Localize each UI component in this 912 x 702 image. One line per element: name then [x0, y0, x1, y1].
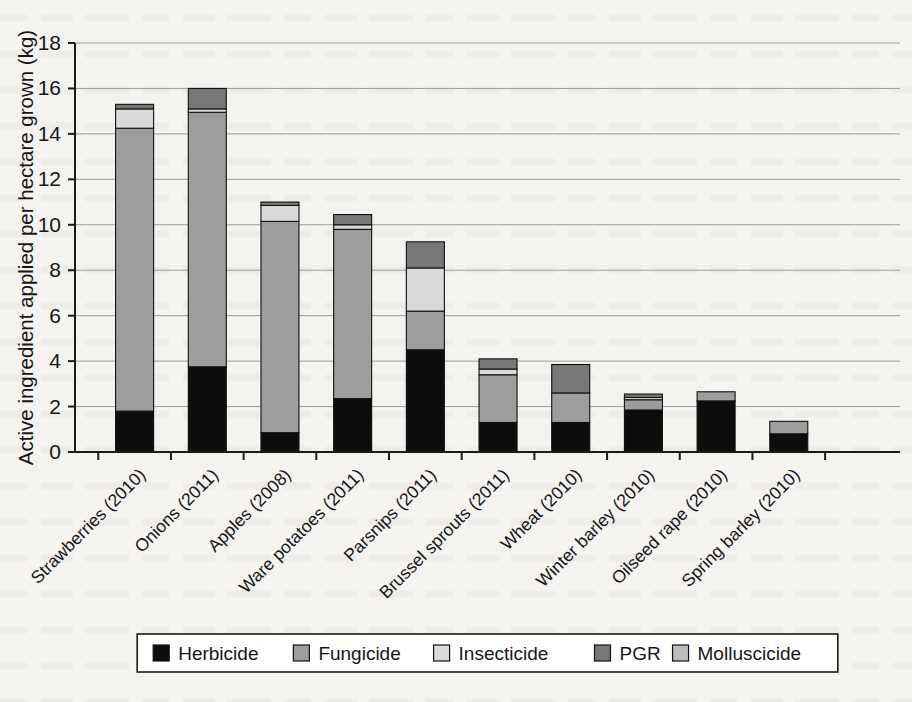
- bar-segment-herbicide[interactable]: [552, 422, 590, 452]
- bar-segment-pgr[interactable]: [261, 202, 299, 205]
- bar-segment-pgr[interactable]: [479, 359, 517, 369]
- bar-spring-barley-2010[interactable]: [770, 421, 808, 452]
- legend-label: Herbicide: [178, 643, 258, 664]
- y-tick-label: 10: [38, 213, 61, 236]
- y-tick-label: 2: [49, 395, 61, 418]
- legend-swatch-fungicide: [293, 645, 309, 661]
- legend-label: Molluscicide: [698, 643, 801, 664]
- bar-segment-pgr[interactable]: [334, 215, 372, 225]
- bar-segment-pgr[interactable]: [552, 365, 590, 393]
- bar-oilseed-rape-2010[interactable]: [697, 392, 735, 452]
- bar-winter-barley-2010[interactable]: [624, 394, 662, 452]
- bar-segment-herbicide[interactable]: [624, 410, 662, 452]
- y-tick-label: 0: [49, 440, 61, 463]
- legend-label: Insecticide: [459, 643, 549, 664]
- x-tick-label: Strawberries (2010): [27, 465, 150, 588]
- bar-segment-pgr[interactable]: [624, 394, 662, 397]
- bar-segment-herbicide[interactable]: [406, 350, 444, 452]
- bar-segment-fungicide[interactable]: [552, 393, 590, 423]
- x-tick-label: Winter barley (2010): [532, 465, 658, 591]
- bar-strawberries-2010[interactable]: [116, 104, 154, 452]
- legend-swatch-pgr: [594, 645, 610, 661]
- y-tick-label: 18: [38, 31, 61, 54]
- bar-onions-2011[interactable]: [188, 88, 226, 452]
- bar-segment-herbicide[interactable]: [697, 401, 735, 452]
- bar-ware-potatoes-2011[interactable]: [334, 215, 372, 452]
- bar-segment-pgr[interactable]: [116, 104, 154, 109]
- legend-swatch-molluscicide: [673, 645, 689, 661]
- y-tick-labels: 024681012141618: [38, 31, 62, 463]
- bar-segment-fungicide[interactable]: [188, 112, 226, 366]
- bar-segment-fungicide[interactable]: [406, 311, 444, 350]
- stacked-bar-chart: 024681012141618 Strawberries (2010)Onion…: [0, 0, 912, 702]
- legend-label: PGR: [619, 643, 660, 664]
- bar-segment-fungicide[interactable]: [624, 400, 662, 410]
- bar-segment-herbicide[interactable]: [116, 411, 154, 452]
- bar-segment-herbicide[interactable]: [261, 433, 299, 452]
- bar-segment-pgr[interactable]: [188, 88, 226, 108]
- bar-segment-herbicide[interactable]: [770, 434, 808, 452]
- y-tick-label: 16: [38, 76, 61, 99]
- legend-swatch-insecticide: [434, 645, 450, 661]
- y-axis-title: Active ingredient applied per hectare gr…: [14, 30, 37, 465]
- bar-segment-herbicide[interactable]: [334, 399, 372, 452]
- x-tick-label: Ware potatoes (2011): [235, 465, 367, 597]
- bar-segment-fungicide[interactable]: [334, 229, 372, 398]
- bar-segment-herbicide[interactable]: [188, 367, 226, 452]
- bar-apples-2008[interactable]: [261, 202, 299, 452]
- bar-segment-fungicide[interactable]: [479, 375, 517, 423]
- chart-page: 024681012141618 Strawberries (2010)Onion…: [0, 0, 912, 702]
- x-tick-labels: Strawberries (2010)Onions (2011)Apples (…: [27, 465, 804, 603]
- y-tick-label: 14: [38, 122, 62, 145]
- bar-segment-insecticide[interactable]: [116, 109, 154, 128]
- legend-swatch-herbicide: [153, 645, 169, 661]
- bar-segment-insecticide[interactable]: [406, 268, 444, 311]
- y-tick-label: 6: [49, 304, 61, 327]
- y-tick-label: 12: [38, 167, 61, 190]
- x-tick-label: Brussel sprouts (2011): [375, 465, 513, 603]
- legend-label: Fungicide: [318, 643, 400, 664]
- bar-segment-fungicide[interactable]: [697, 392, 735, 401]
- bar-segment-insecticide[interactable]: [479, 369, 517, 375]
- legend-item-herbicide[interactable]: Herbicide: [153, 643, 258, 664]
- bar-segment-insecticide[interactable]: [334, 225, 372, 230]
- y-tick-label: 4: [49, 349, 61, 372]
- bar-brussel-sprouts-2011[interactable]: [479, 359, 517, 452]
- bar-parsnips-2011[interactable]: [406, 242, 444, 452]
- chart-legend: HerbicideFungicideInsecticidePGRMollusci…: [137, 634, 838, 672]
- bar-segment-insecticide[interactable]: [261, 205, 299, 221]
- legend-item-fungicide[interactable]: Fungicide: [293, 643, 400, 664]
- bar-segment-fungicide[interactable]: [116, 128, 154, 411]
- bar-segment-fungicide[interactable]: [770, 421, 808, 433]
- bar-segment-herbicide[interactable]: [479, 422, 517, 452]
- x-tick-label: Spring barley (2010): [677, 465, 803, 591]
- y-axis-title-text: Active ingredient applied per hectare gr…: [14, 30, 37, 465]
- legend-item-pgr[interactable]: PGR: [594, 643, 660, 664]
- bar-wheat-2010[interactable]: [552, 365, 590, 452]
- bar-segment-fungicide[interactable]: [261, 221, 299, 432]
- y-tick-label: 8: [49, 258, 61, 281]
- bar-segment-pgr[interactable]: [406, 242, 444, 268]
